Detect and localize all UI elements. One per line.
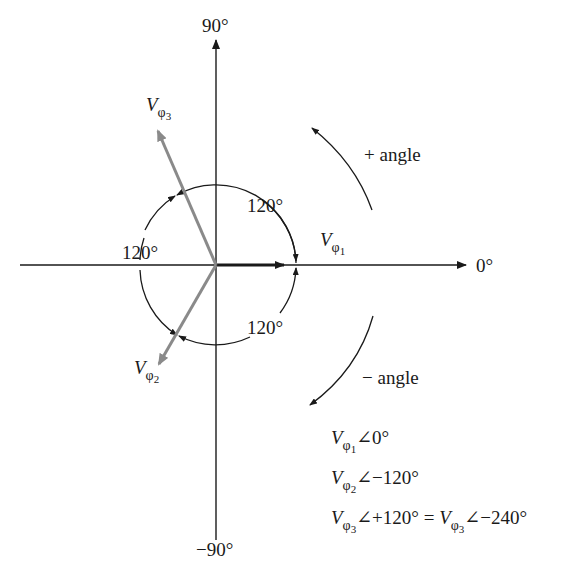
phasor-v-phi-2 bbox=[159, 265, 216, 364]
equation-v-phi-2: Vφ2∠−120° bbox=[331, 468, 419, 487]
label-v-phi-1: Vφ1 bbox=[320, 230, 345, 249]
arc-left-120-deg bbox=[140, 270, 177, 335]
axis-label-minus-90-deg: −90° bbox=[196, 540, 233, 559]
phasor-v-phi-3 bbox=[158, 131, 216, 265]
positive-angle-label: + angle bbox=[364, 145, 421, 164]
negative-angle-label: − angle bbox=[362, 368, 419, 387]
label-v-phi-2: Vφ2 bbox=[134, 358, 159, 377]
phasor-diagram-canvas bbox=[0, 0, 562, 577]
axis-label-0-deg: 0° bbox=[476, 256, 493, 275]
axis-label-90-deg: 90° bbox=[202, 16, 229, 35]
arc-label-lower-right: 120° bbox=[247, 318, 283, 337]
equation-v-phi-1: Vφ1∠0° bbox=[331, 428, 389, 447]
negative-angle-arrow bbox=[310, 316, 373, 405]
arc-lower-right bbox=[280, 268, 296, 313]
positive-angle-arrow bbox=[312, 128, 372, 210]
arc-lower-120-deg bbox=[179, 336, 250, 345]
arc-left-top bbox=[145, 196, 175, 230]
equation-v-phi-3: Vφ3∠+120° = Vφ3∠−240° bbox=[331, 508, 527, 527]
arc-label-upper-right: 120° bbox=[247, 196, 283, 215]
arc-label-left: 120° bbox=[122, 243, 158, 262]
label-v-phi-3: Vφ3 bbox=[146, 95, 171, 114]
